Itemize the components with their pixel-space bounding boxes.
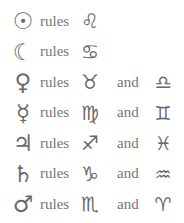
rules-label: rules — [40, 98, 69, 128]
gemini-icon: ♊ — [150, 98, 176, 128]
rules-label: rules — [40, 67, 69, 97]
rulership-row-saturn: ♄ rules ♑ and ♒ — [0, 159, 184, 190]
leo-icon: ♌ — [76, 6, 104, 36]
rules-label: rules — [40, 128, 69, 158]
rulership-row-moon: ☾ rules ♋ — [0, 37, 184, 68]
and-label: and — [117, 159, 139, 189]
sun-icon: ☉ — [8, 6, 38, 36]
jupiter-icon: ♃ — [8, 128, 38, 158]
aquarius-icon: ♒ — [150, 159, 176, 189]
taurus-icon: ♉ — [76, 67, 104, 97]
rulership-row-venus: ♀ rules ♉ and ♎ — [0, 67, 184, 98]
cancer-icon: ♋ — [76, 37, 104, 67]
libra-icon: ♎ — [150, 67, 176, 97]
pisces-icon: ♓ — [150, 128, 176, 158]
scorpio-icon: ♏ — [76, 189, 104, 219]
rules-label: rules — [40, 6, 69, 36]
rulership-row-mercury: ☿ rules ♍ and ♊ — [0, 98, 184, 129]
planetary-rulership-table: ☉ rules ♌ ☾ rules ♋ ♀ rules ♉ and ♎ ☿ ru… — [0, 6, 184, 220]
rulership-row-sun: ☉ rules ♌ — [0, 6, 184, 37]
sagittarius-icon: ♐ — [76, 128, 104, 158]
and-label: and — [117, 67, 139, 97]
mars-icon: ♂ — [8, 189, 38, 219]
aries-icon: ♈ — [150, 189, 176, 219]
rules-label: rules — [40, 159, 69, 189]
virgo-icon: ♍ — [76, 98, 104, 128]
and-label: and — [117, 98, 139, 128]
and-label: and — [117, 128, 139, 158]
rules-label: rules — [40, 37, 69, 67]
and-label: and — [117, 189, 139, 219]
rules-label: rules — [40, 189, 69, 219]
moon-icon: ☾ — [8, 37, 38, 67]
mercury-icon: ☿ — [8, 98, 38, 128]
capricorn-icon: ♑ — [76, 159, 104, 189]
venus-icon: ♀ — [8, 67, 38, 97]
rulership-row-mars: ♂ rules ♏ and ♈ — [0, 189, 184, 220]
rulership-row-jupiter: ♃ rules ♐ and ♓ — [0, 128, 184, 159]
saturn-icon: ♄ — [8, 159, 38, 189]
